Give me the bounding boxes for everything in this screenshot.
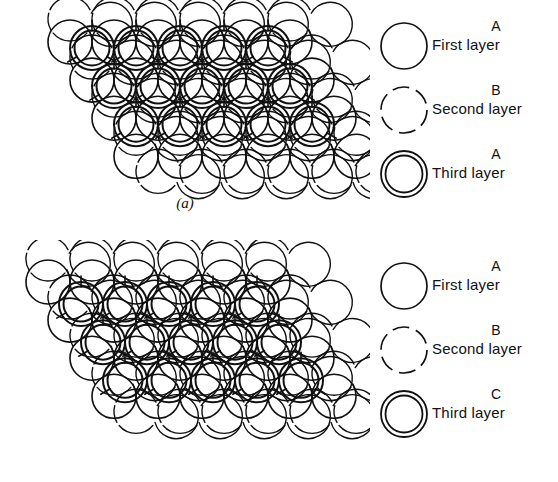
ccp-packing-drawing bbox=[0, 240, 370, 440]
legend-panel-a: A First layer B Second layer A Third lay… bbox=[370, 18, 558, 213]
legend-item-second-layer-a: B Second layer bbox=[370, 82, 558, 139]
legend-item-third-layer-a: A Third layer bbox=[370, 146, 558, 203]
legend-letter: C bbox=[432, 386, 558, 403]
legend-text-first-layer-b: A First layer bbox=[432, 258, 558, 294]
legend-item-second-layer-b: B Second layer bbox=[370, 322, 558, 379]
legend-item-first-layer-b: A First layer bbox=[370, 258, 558, 315]
legend-letter: A bbox=[432, 18, 558, 35]
legend-label: Second layer bbox=[432, 99, 558, 118]
double-circle-icon bbox=[378, 388, 430, 440]
legend-label: Third layer bbox=[432, 403, 558, 422]
panel-a-hcp-packing: (a) bbox=[0, 0, 370, 240]
legend-label: First layer bbox=[432, 275, 558, 294]
legend-label: Second layer bbox=[432, 339, 558, 358]
legend-text-first-layer-a: A First layer bbox=[432, 18, 558, 54]
legend-letter: A bbox=[432, 146, 558, 163]
legend-letter: A bbox=[432, 258, 558, 275]
panel-a-caption: (a) bbox=[0, 195, 370, 212]
legend-item-third-layer-b: C Third layer bbox=[370, 386, 558, 443]
hcp-packing-drawing bbox=[0, 0, 370, 200]
solid-circle-icon bbox=[378, 20, 430, 72]
legend-item-first-layer-a: A First layer bbox=[370, 18, 558, 75]
solid-circle-icon bbox=[378, 260, 430, 312]
legend-text-second-layer-b: B Second layer bbox=[432, 322, 558, 358]
dashed-circle-icon bbox=[378, 324, 430, 376]
legend-panel-b: A First layer B Second layer C Third lay… bbox=[370, 258, 558, 453]
legend-text-third-layer-a: A Third layer bbox=[432, 146, 558, 182]
dashed-circle-icon bbox=[378, 84, 430, 136]
legend-label: First layer bbox=[432, 35, 558, 54]
legend-text-second-layer-a: B Second layer bbox=[432, 82, 558, 118]
legend-letter: B bbox=[432, 82, 558, 99]
legend-letter: B bbox=[432, 322, 558, 339]
double-circle-icon bbox=[378, 148, 430, 200]
legend-label: Third layer bbox=[432, 163, 558, 182]
panel-b-ccp-packing: (b) bbox=[0, 240, 370, 482]
legend-text-third-layer-b: C Third layer bbox=[432, 386, 558, 422]
